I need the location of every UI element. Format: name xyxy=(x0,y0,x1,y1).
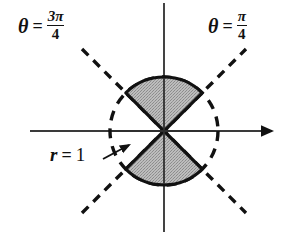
fraction-numerator-left: 3π xyxy=(47,9,65,26)
label-theta-three-pi-over-four: θ = 3π 4 xyxy=(18,9,64,43)
label-theta-pi-over-four: θ = π 4 xyxy=(208,9,247,43)
theta-symbol-left: θ xyxy=(18,16,28,36)
equals-sign-radius: = xyxy=(61,146,71,164)
fraction-denominator-left: 4 xyxy=(51,26,61,42)
equals-sign-left: = xyxy=(32,17,42,35)
fraction-denominator-right: 4 xyxy=(237,26,247,42)
polar-region-figure: θ = 3π 4 θ = π 4 r = 1 xyxy=(0,0,290,247)
theta-symbol-right: θ xyxy=(208,16,218,36)
equals-sign-right: = xyxy=(222,17,232,35)
fraction-pi-over-four: π 4 xyxy=(237,9,247,43)
radius-value: 1 xyxy=(76,145,86,164)
radius-label-leader-line xyxy=(103,145,129,159)
label-r-equals-one: r = 1 xyxy=(50,145,85,164)
fraction-numerator-right: π xyxy=(237,9,247,26)
fraction-three-pi-over-four: 3π 4 xyxy=(47,9,65,43)
r-symbol: r xyxy=(50,145,57,164)
